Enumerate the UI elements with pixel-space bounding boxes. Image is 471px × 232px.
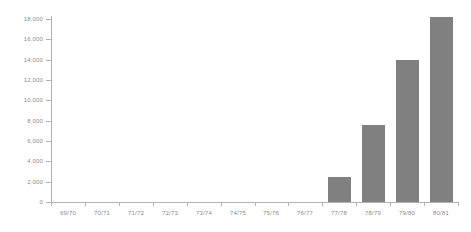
x-axis-tick xyxy=(356,202,357,206)
x-axis-tick xyxy=(119,202,120,206)
x-axis-tick xyxy=(322,202,323,206)
y-axis-line xyxy=(51,16,52,203)
y-axis-tick xyxy=(46,80,51,81)
y-axis-tick xyxy=(46,161,51,162)
y-axis-label: 8,000 xyxy=(0,118,43,124)
y-axis-tick xyxy=(46,121,51,122)
bar xyxy=(362,125,385,202)
x-axis-tick xyxy=(458,202,459,206)
bar xyxy=(328,177,351,202)
x-axis-label: 80/81 xyxy=(419,210,463,217)
y-axis-label: 16,000 xyxy=(0,36,43,42)
y-axis-label: 4,000 xyxy=(0,158,43,164)
bar xyxy=(430,17,453,202)
x-axis-tick xyxy=(390,202,391,206)
x-axis-tick xyxy=(221,202,222,206)
x-axis-tick xyxy=(85,202,86,206)
x-axis-tick xyxy=(51,202,52,206)
x-axis-tick xyxy=(424,202,425,206)
y-axis-label: 6,000 xyxy=(0,138,43,144)
y-axis-label: 0 xyxy=(0,199,43,205)
y-axis-label: 2,000 xyxy=(0,179,43,185)
bar-chart: 02,0004,0006,0008,00010,00012,00014,0001… xyxy=(0,0,471,232)
y-axis-tick xyxy=(46,100,51,101)
x-axis-tick xyxy=(288,202,289,206)
y-axis-tick xyxy=(46,141,51,142)
y-axis-label: 10,000 xyxy=(0,97,43,103)
x-axis-tick xyxy=(153,202,154,206)
x-axis-tick xyxy=(255,202,256,206)
y-axis-label: 14,000 xyxy=(0,57,43,63)
y-axis-tick xyxy=(46,60,51,61)
y-axis-tick xyxy=(46,19,51,20)
x-axis-tick xyxy=(187,202,188,206)
y-axis-tick xyxy=(46,39,51,40)
y-axis-tick xyxy=(46,182,51,183)
y-axis-label: 18,000 xyxy=(0,16,43,22)
bar xyxy=(396,60,419,202)
y-axis-label: 12,000 xyxy=(0,77,43,83)
